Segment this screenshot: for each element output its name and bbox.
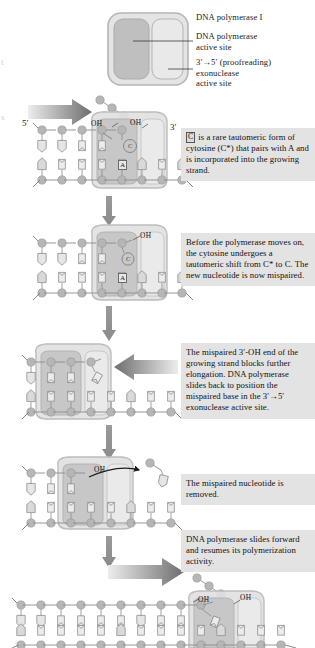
step-2-text: Before the polymerase moves on, the cyto… xyxy=(186,237,308,280)
step-5-textbox: DNA polymerase slides forward and resume… xyxy=(181,530,315,572)
label-three-prime-1: 3′ xyxy=(170,122,176,132)
step-4-textbox: The mispaired nucleotide is removed. xyxy=(181,474,315,505)
block-arrow-step5 xyxy=(108,558,184,586)
flow-arrow-4-to-5 xyxy=(102,536,116,568)
block-arrow-step3 xyxy=(114,354,178,380)
label-oh-5b: OH xyxy=(240,593,251,602)
exonuclease-lobe-2 xyxy=(141,232,164,296)
flow-arrow-1-to-2 xyxy=(102,196,116,226)
dna-panel-5 xyxy=(12,574,296,648)
step-3-textbox: The mispaired 3′-OH end of the growing s… xyxy=(181,343,315,419)
step-5-text: DNA polymerase slides forward and resume… xyxy=(186,534,300,566)
base-tag-cytosine-1: C xyxy=(128,142,132,149)
base-tag-adenine-2: A xyxy=(118,273,127,283)
exonuclease-lobe-1 xyxy=(141,119,164,184)
label-oh-1b: OH xyxy=(130,118,141,127)
step-2-textbox: Before the polymerase moves on, the cyto… xyxy=(181,233,315,286)
step-1-textbox: C is a rare tautomeric form of cytosine … xyxy=(181,128,315,181)
label-oh-5a: OH xyxy=(198,595,209,604)
label-oh-2: OH xyxy=(140,231,151,240)
step-1-text: is a rare tautomeric form of cytosine (C… xyxy=(186,132,309,175)
dna-panel-2 xyxy=(33,225,193,300)
flow-arrow-2-to-3 xyxy=(102,306,116,341)
base-tag-cytosine-2: C xyxy=(126,255,130,262)
released-nucleotide xyxy=(146,459,168,488)
dna-panel-3 xyxy=(22,344,182,419)
step-4-text: The mispaired nucleotide is removed. xyxy=(186,478,284,499)
exonuclease-lobe-5 xyxy=(238,598,261,648)
label-oh-1a: OH xyxy=(91,119,102,128)
step-3-text: The mispaired 3′-OH end of the growing s… xyxy=(186,347,298,412)
label-five-prime-1: 5′ xyxy=(22,118,28,128)
base-tag-adenine-1: A xyxy=(118,160,127,170)
step-1-base-badge: C xyxy=(186,132,195,143)
label-oh-4: OH xyxy=(94,465,105,474)
block-arrow-step1 xyxy=(28,99,92,125)
proofreading-figure: t s DNA polymerase I DNA polymerase acti… xyxy=(0,0,315,648)
exonuclease-lobe-4 xyxy=(107,464,130,525)
flow-arrow-3-to-4 xyxy=(102,425,116,460)
